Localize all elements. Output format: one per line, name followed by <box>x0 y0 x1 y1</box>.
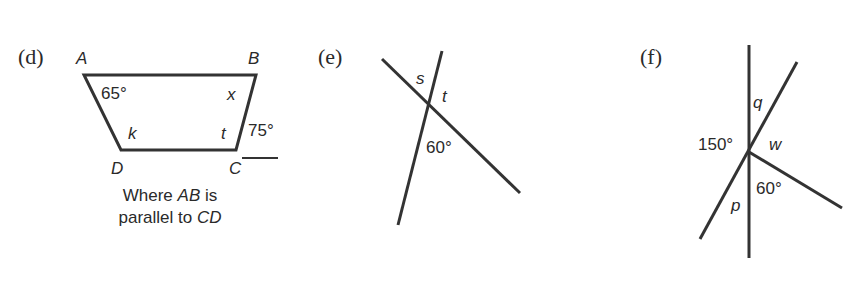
caption-text: Where <box>123 186 178 205</box>
caption-text: parallel to <box>119 208 197 227</box>
vertex-label-c: C <box>229 160 241 177</box>
caption-segment-cd: CD <box>197 208 222 227</box>
vertex-label-a: A <box>76 50 87 67</box>
angle-label-60-f: 60° <box>756 180 782 197</box>
caption-line-1: Where AB is <box>100 185 240 207</box>
caption-line-2: parallel to CD <box>100 207 240 229</box>
angle-label-q: q <box>753 94 762 111</box>
angle-label-w: w <box>769 136 781 153</box>
angle-label-x: x <box>227 86 236 103</box>
geometry-exercises: (d) A B C D 65° x k t 75° Where AB is pa… <box>0 0 862 285</box>
caption-text: is <box>200 186 217 205</box>
part-label-d: (d) <box>18 46 44 68</box>
angle-label-75: 75° <box>248 122 274 139</box>
angle-label-p: p <box>731 197 740 214</box>
vertex-label-d: D <box>111 160 123 177</box>
angle-label-s: s <box>416 70 425 87</box>
part-label-e: (e) <box>318 46 342 68</box>
caption-segment-ab: AB <box>178 186 201 205</box>
angle-label-t-e: t <box>442 88 447 105</box>
angle-label-t-d: t <box>221 125 226 142</box>
angle-label-60-e: 60° <box>426 139 452 156</box>
angle-label-k: k <box>128 125 137 142</box>
angle-label-150: 150° <box>698 136 733 153</box>
vertex-label-b: B <box>248 50 259 67</box>
part-label-f: (f) <box>640 46 662 68</box>
caption-parallel: Where AB is parallel to CD <box>100 185 240 229</box>
angle-label-65: 65° <box>101 85 127 102</box>
